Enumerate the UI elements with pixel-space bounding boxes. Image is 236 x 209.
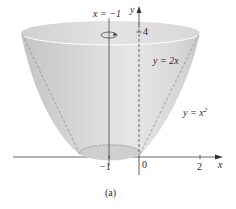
y-axis-arrow-icon bbox=[137, 6, 142, 13]
curve-y-x2-label: y = x2 bbox=[183, 108, 207, 118]
bowl-surface bbox=[21, 33, 200, 161]
x-tick-0-label: 0 bbox=[142, 160, 147, 170]
solid-of-revolution-figure: x = −1 y 4 y = 2x y = x2 −1 0 2 x (a) bbox=[0, 0, 236, 209]
x-axis-label: x bbox=[218, 160, 222, 170]
y-axis-label: y bbox=[130, 5, 134, 15]
x-tick-2-label: 2 bbox=[197, 162, 202, 172]
line-y-2x-label: y = 2x bbox=[153, 56, 179, 66]
bowl-diagram bbox=[0, 0, 236, 209]
axis-of-rotation-label: x = −1 bbox=[93, 9, 121, 19]
figure-caption: (a) bbox=[105, 188, 116, 198]
y-tick-4-label: 4 bbox=[143, 27, 148, 37]
x-tick-neg1-label: −1 bbox=[100, 162, 111, 172]
bottom-disk bbox=[80, 144, 140, 160]
